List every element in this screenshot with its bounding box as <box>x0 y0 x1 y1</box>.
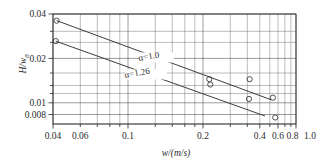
x-tick-label: 0.4 <box>254 131 266 141</box>
y-tick-label: 0.02 <box>29 54 46 64</box>
x-tick-label: 0.2 <box>197 131 209 141</box>
x-tick-label: 0.04 <box>45 131 62 141</box>
y-tick-label: 0.04 <box>29 9 46 19</box>
x-tick-label: 0.8 <box>287 131 299 141</box>
log-log-chart: 0.04 0.02 0.01 0.008 0.04 0.06 0.1 0.2 0… <box>0 0 320 164</box>
x-axis-title: w/(m/s) <box>162 148 191 159</box>
x-tick-label: 0.6 <box>272 131 284 141</box>
x-tick-label: 0.06 <box>72 131 89 141</box>
y-tick-label: 0.008 <box>25 110 47 120</box>
x-tick-label: 1.0 <box>304 131 316 141</box>
figure-container: 0.04 0.02 0.01 0.008 0.04 0.06 0.1 0.2 0… <box>0 0 320 164</box>
y-tick-label: 0.01 <box>29 98 46 108</box>
x-tick-label: 0.1 <box>122 131 134 141</box>
